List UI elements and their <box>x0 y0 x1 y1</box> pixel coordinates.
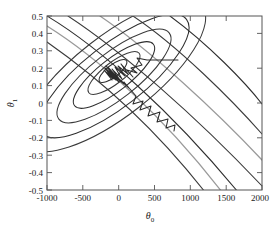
x-tick-label: 1500 <box>217 193 236 203</box>
y-tick-label: -0.1 <box>29 116 43 126</box>
x-tick-label: 0 <box>116 193 121 203</box>
y-axis-title-subscript: 1 <box>11 98 19 102</box>
y-tick-label: -0.5 <box>29 186 44 196</box>
y-tick-label: -0.4 <box>29 168 44 178</box>
y-tick-label: 0.4 <box>32 29 44 39</box>
x-tick-label: 1000 <box>181 193 200 203</box>
y-tick-label: 0 <box>39 99 44 109</box>
y-tick-label: -0.3 <box>29 151 44 161</box>
y-tick-label: 0.2 <box>32 64 43 74</box>
x-tick-label: 500 <box>148 193 162 203</box>
y-tick-label: 0.3 <box>32 46 44 56</box>
contour-plot-figure: -1000 -500 0 500 1000 1500 2000 0.5 0.4 … <box>0 0 278 227</box>
x-axis-title-subscript: 0 <box>151 216 155 224</box>
y-tick-label: -0.2 <box>29 133 43 143</box>
x-tick-label: -500 <box>75 193 92 203</box>
y-tick-label: 0.1 <box>32 81 43 91</box>
x-tick-label: 2000 <box>251 193 270 203</box>
y-tick-label: 0.5 <box>32 12 44 22</box>
gradient-descent-contour-chart: -1000 -500 0 500 1000 1500 2000 0.5 0.4 … <box>0 0 278 227</box>
